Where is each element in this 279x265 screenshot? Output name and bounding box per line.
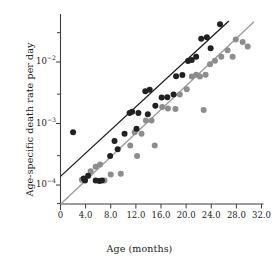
data-point-dark-cohort-3: [85, 173, 91, 179]
data-point-light-cohort-16: [172, 106, 178, 112]
x-tick-label-0: 0: [47, 210, 75, 220]
y-axis-title: Age-specific death rate per day: [24, 5, 35, 235]
dark-series-points-group: [70, 21, 223, 184]
data-point-dark-cohort-8: [112, 138, 118, 144]
data-point-dark-cohort-29: [208, 45, 214, 51]
data-point-dark-cohort-10: [122, 131, 128, 137]
data-point-light-cohort-7: [127, 142, 133, 148]
x-tick-label-4: 16.0: [147, 210, 175, 220]
data-point-light-cohort-15: [165, 106, 171, 112]
x-tick-label-3: 12.0: [122, 210, 150, 220]
data-point-dark-cohort-27: [198, 36, 204, 42]
data-point-dark-cohort-12: [129, 109, 135, 115]
data-point-dark-cohort-9: [115, 146, 121, 152]
data-point-light-cohort-9: [134, 153, 140, 159]
light-series-points-group: [79, 37, 251, 184]
y-tick-mantissa-1: 10: [36, 118, 47, 128]
data-point-light-cohort-30: [240, 39, 246, 45]
data-point-light-cohort-26: [218, 54, 224, 60]
dark-fit-line: [61, 21, 229, 176]
x-tick-label-1: 4.0: [72, 210, 100, 220]
data-point-light-cohort-10: [139, 131, 145, 137]
data-point-light-cohort-27: [225, 47, 231, 53]
data-point-light-cohort-25: [212, 58, 218, 64]
data-point-light-cohort-31: [245, 44, 251, 50]
data-point-light-cohort-14: [159, 104, 165, 110]
data-point-light-cohort-12: [149, 117, 155, 123]
x-tick-label-6: 24.0: [197, 210, 225, 220]
data-point-dark-cohort-18: [152, 103, 158, 109]
data-point-light-cohort-13: [152, 142, 158, 148]
data-point-light-cohort-5: [108, 172, 114, 178]
data-point-dark-cohort-2: [82, 178, 88, 184]
data-point-light-cohort-3: [97, 162, 103, 168]
data-point-light-cohort-18: [184, 86, 190, 92]
x-tick-label-7: 28.0: [222, 210, 250, 220]
data-point-light-cohort-24: [207, 61, 213, 67]
x-tick-label-8: 32.0: [248, 210, 276, 220]
data-point-dark-cohort-14: [135, 110, 141, 116]
data-point-light-cohort-28: [230, 54, 236, 60]
data-point-dark-cohort-17: [147, 87, 153, 93]
data-point-dark-cohort-0: [70, 129, 76, 135]
y-tick-exponent-0: −2: [47, 54, 56, 61]
data-point-dark-cohort-13: [134, 126, 140, 132]
data-point-dark-cohort-16: [145, 111, 151, 117]
data-point-light-cohort-22: [201, 107, 207, 113]
y-tick-exponent-2: −4: [47, 177, 56, 184]
y-tick-mantissa-2: 10: [36, 179, 47, 189]
x-axis-title: Age (months): [0, 243, 279, 254]
x-tick-label-5: 20.0: [172, 210, 200, 220]
x-tick-label-2: 8.0: [97, 210, 125, 220]
data-point-dark-cohort-23: [179, 72, 185, 78]
data-point-dark-cohort-22: [173, 73, 179, 79]
data-point-light-cohort-21: [197, 74, 203, 80]
y-tick-mantissa-0: 10: [36, 56, 47, 66]
data-point-dark-cohort-19: [159, 94, 165, 100]
scatter-plot-canvas: [0, 0, 279, 265]
data-point-dark-cohort-26: [193, 54, 199, 60]
data-point-dark-cohort-30: [217, 21, 223, 27]
y-tick-exponent-1: −3: [47, 116, 56, 123]
data-point-light-cohort-17: [177, 92, 183, 98]
data-point-light-cohort-6: [118, 171, 124, 177]
data-point-light-cohort-23: [203, 72, 209, 78]
data-point-dark-cohort-21: [171, 92, 177, 98]
data-point-light-cohort-11: [143, 117, 149, 123]
data-point-dark-cohort-6: [99, 178, 105, 184]
data-point-dark-cohort-28: [204, 34, 210, 40]
data-point-dark-cohort-20: [164, 94, 170, 100]
data-point-dark-cohort-7: [107, 153, 113, 159]
data-point-light-cohort-29: [233, 37, 239, 43]
figure-container: 04.08.012.016.020.024.028.032.010−210−31…: [0, 0, 279, 265]
